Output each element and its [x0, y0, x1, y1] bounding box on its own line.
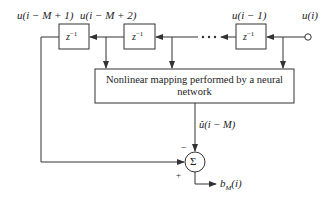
minus-sign: − [181, 143, 187, 153]
delay-label-1: z−1 [66, 31, 77, 42]
block-diagram [0, 0, 332, 198]
neural-network-label: Nonlinear mapping performed by a neural … [95, 74, 294, 98]
sigma-symbol: Σ [190, 156, 196, 167]
input-node [305, 34, 311, 40]
label-u-i-minus-1: u(i − 1) [232, 10, 266, 21]
label-u-i-minus-M-plus-2: u(i − M + 2) [80, 10, 136, 21]
output-label: bM(i) [220, 178, 242, 192]
plus-sign: + [176, 171, 181, 180]
label-u-i: u(i) [302, 10, 318, 21]
delay-label-2: z−1 [132, 31, 143, 42]
delay-label-3: z−1 [243, 31, 254, 42]
prediction-label: û(i − M) [199, 120, 235, 131]
label-u-i-minus-M-plus-1: u(i − M + 1) [17, 10, 73, 21]
